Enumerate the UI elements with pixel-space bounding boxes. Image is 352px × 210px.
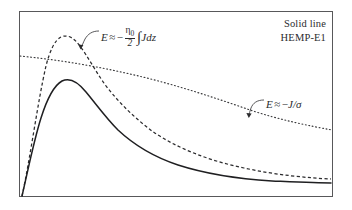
arrowhead-conductivity-icon	[246, 113, 251, 118]
integral-sign-icon: ∫	[137, 32, 141, 43]
curve-integral-dashed	[22, 36, 331, 196]
equation-integral-numerator: η0	[125, 26, 136, 38]
equation-conductivity-lhs: E	[266, 98, 273, 110]
legend-series-name: HEMP-E1	[281, 31, 326, 45]
solid-line-legend: Solid line HEMP-E1	[281, 17, 326, 45]
equation-conductivity-expression: J/σ	[288, 98, 301, 110]
equation-integral-denominator: 2	[125, 38, 136, 49]
equation-integral-lhs: E	[101, 31, 108, 43]
equation-integral-minus-sign: −	[117, 31, 123, 43]
equation-integral-approx-sign: ≈	[109, 31, 115, 43]
equation-integral-integrand: Jdz	[141, 31, 156, 43]
figure-root: Solid line HEMP-E1 E ≈ − η0 2 ∫ Jdz E ≈ …	[0, 0, 352, 210]
equation-annotation-conductivity: E ≈ − J/σ	[266, 97, 301, 110]
equation-integral-fraction: η0 2	[125, 26, 136, 49]
curve-conductivity-dotted	[20, 56, 332, 130]
legend-line-style: Solid line	[281, 17, 326, 31]
equation-annotation-integral: E ≈ − η0 2 ∫ Jdz	[101, 25, 156, 48]
equation-conductivity-approx-sign: ≈	[274, 98, 280, 110]
leader-line-integral	[81, 31, 99, 48]
